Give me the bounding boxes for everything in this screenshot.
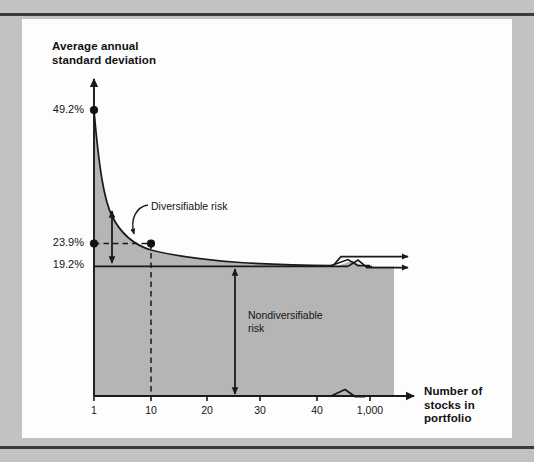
x-axis-title-line3: portfolio — [424, 412, 524, 426]
total-risk-curve — [94, 110, 408, 266]
y-axis-title: Average annual standard deviation — [52, 40, 222, 67]
y-axis-title-line2: standard deviation — [52, 54, 222, 68]
nondiversifiable-risk-label-line2: risk — [248, 322, 368, 335]
y-tick-label-23: 23.9% — [28, 236, 84, 248]
x-axis-title: Number of stocks in portfolio — [424, 385, 524, 426]
diversifiable-risk-label: Diversifiable risk — [151, 200, 291, 213]
total-risk-area — [94, 110, 394, 396]
x-tick-label-20: 20 — [184, 404, 230, 416]
y-tick-label-19: 19.2% — [28, 258, 84, 270]
nondiversifiable-risk-label: Nondiversifiable risk — [248, 309, 368, 335]
y-axis-title-line1: Average annual — [52, 40, 222, 54]
figure-page: Average annual standard deviation Number… — [0, 0, 534, 462]
diversifiable-risk-leader — [133, 205, 148, 234]
x-axis-title-line2: stocks in — [424, 399, 524, 413]
nondiversifiable-risk-label-line1: Nondiversifiable — [248, 309, 368, 322]
x-tick-label-1: 1 — [71, 404, 117, 416]
x-axis-title-line1: Number of — [424, 385, 524, 399]
x-tick-label-1000: 1,000 — [347, 404, 393, 416]
x-tick-label-10: 10 — [128, 404, 174, 416]
y-tick-label-49: 49.2% — [28, 103, 84, 115]
x-tick-label-40: 40 — [294, 404, 340, 416]
x-tick-label-30: 30 — [237, 404, 283, 416]
